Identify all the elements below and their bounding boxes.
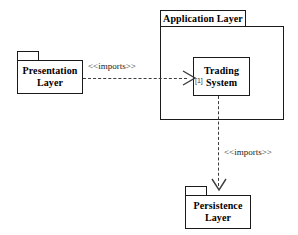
- dependency-label-application-to-persistence: <<imports>>: [224, 147, 272, 157]
- package-tab-application-layer: Application Layer: [160, 10, 246, 26]
- uml-package-diagram-canvas: Application Layer Trading System [1] Pre…: [0, 0, 298, 235]
- arrowhead-right-icon: [181, 69, 199, 87]
- package-label-application-layer: Application Layer: [161, 14, 245, 24]
- dependency-line-application-to-persistence[interactable]: [218, 96, 219, 186]
- package-tab-presentation-layer: [17, 51, 39, 60]
- dependency-label-presentation-to-application: <<imports>>: [88, 61, 136, 71]
- package-tab-persistence-layer: [185, 186, 207, 195]
- package-presentation-layer[interactable]: Presentation Layer: [17, 51, 83, 94]
- arrowhead-down-icon: [210, 177, 228, 193]
- package-label-presentation-layer: Presentation Layer: [18, 65, 82, 89]
- package-body-persistence-layer: Persistence Layer: [185, 195, 251, 229]
- dependency-line-presentation-to-application[interactable]: [83, 78, 187, 79]
- package-body-presentation-layer: Presentation Layer: [17, 60, 83, 94]
- package-label-persistence-layer: Persistence Layer: [186, 200, 250, 224]
